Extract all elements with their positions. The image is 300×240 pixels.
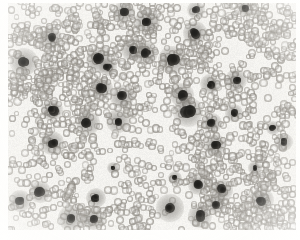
erythrocyte [147, 126, 155, 134]
erythrocyte [168, 3, 174, 6]
erythrocyte [178, 226, 185, 230]
erythrocyte [150, 32, 157, 39]
erythrocyte [152, 77, 159, 84]
erythrocyte [232, 207, 239, 214]
erythrocyte [33, 112, 39, 118]
erythrocyte [185, 102, 193, 110]
erythrocyte [225, 12, 232, 19]
erythrocyte [147, 95, 155, 103]
erythrocyte [126, 24, 132, 30]
erythrocyte [278, 200, 284, 206]
erythrocyte [240, 10, 246, 16]
erythrocyte [184, 99, 190, 105]
erythrocyte [185, 191, 193, 199]
nucleated-cell [48, 140, 56, 148]
erythrocyte [277, 27, 284, 34]
erythrocyte [8, 166, 13, 174]
erythrocyte [90, 99, 99, 108]
erythrocyte [196, 140, 203, 147]
erythrocyte [17, 22, 25, 30]
erythrocyte [78, 89, 85, 96]
erythrocyte [8, 49, 17, 58]
erythrocyte [134, 157, 141, 164]
erythrocyte [42, 34, 48, 40]
erythrocyte [12, 37, 18, 43]
erythrocyte [47, 70, 53, 76]
erythrocyte [150, 180, 156, 186]
erythrocyte [252, 170, 258, 176]
nucleated-cell [207, 120, 213, 126]
erythrocyte [244, 179, 251, 186]
erythrocyte [190, 59, 198, 67]
erythrocyte [41, 107, 48, 114]
erythrocyte [236, 16, 241, 21]
erythrocyte [209, 222, 217, 230]
erythrocyte [110, 88, 118, 96]
nucleated-cell [231, 109, 238, 116]
erythrocyte [90, 90, 97, 97]
erythrocyte [246, 121, 252, 127]
erythrocyte [266, 50, 273, 57]
erythrocyte [79, 111, 87, 119]
erythrocyte [261, 193, 268, 200]
erythrocyte [56, 101, 62, 107]
erythrocyte [183, 39, 192, 48]
erythrocyte [276, 108, 284, 116]
erythrocyte [138, 62, 144, 68]
erythrocyte [149, 25, 157, 33]
erythrocyte [28, 128, 34, 134]
erythrocyte [182, 100, 190, 108]
erythrocyte [183, 58, 190, 65]
erythrocyte [25, 32, 31, 38]
erythrocyte [59, 121, 67, 129]
erythrocyte [279, 52, 286, 59]
erythrocyte [64, 210, 70, 216]
erythrocyte [238, 23, 244, 29]
nucleated-cell [93, 197, 98, 202]
erythrocyte [55, 165, 61, 171]
erythrocyte [45, 53, 52, 60]
nucleated-cell [118, 92, 124, 98]
erythrocyte [87, 125, 93, 131]
erythrocyte [260, 46, 267, 53]
erythrocyte [85, 97, 92, 104]
erythrocyte [23, 88, 29, 94]
erythrocyte [104, 113, 110, 119]
erythrocyte [207, 167, 214, 174]
erythrocyte [167, 10, 174, 17]
erythrocyte [58, 180, 64, 186]
erythrocyte [249, 101, 257, 109]
erythrocyte [130, 17, 136, 23]
erythrocyte [173, 79, 179, 85]
erythrocyte [211, 89, 219, 97]
erythrocyte [277, 223, 283, 229]
erythrocyte [112, 129, 120, 137]
nucleated-cell [257, 197, 266, 206]
nucleated-cell [193, 6, 201, 14]
nucleated-cell [217, 184, 226, 193]
erythrocyte [142, 119, 150, 127]
erythrocyte [206, 177, 213, 184]
erythrocyte [203, 204, 209, 210]
erythrocyte [45, 76, 52, 83]
erythrocyte [100, 19, 105, 24]
erythrocyte [21, 67, 27, 73]
nucleated-cell [141, 49, 149, 57]
erythrocyte [131, 217, 137, 223]
erythrocyte [21, 30, 29, 38]
erythrocyte [263, 19, 269, 25]
erythrocyte [252, 73, 259, 80]
erythrocyte [201, 222, 207, 228]
erythrocyte [199, 52, 205, 58]
nucleated-cell [93, 53, 104, 64]
erythrocyte [211, 179, 217, 185]
erythrocyte [257, 11, 266, 20]
erythrocyte [40, 114, 45, 119]
erythrocyte [126, 71, 134, 79]
erythrocyte [213, 64, 219, 70]
erythrocyte [103, 209, 111, 217]
erythrocyte [140, 103, 147, 110]
erythrocyte [76, 3, 83, 7]
erythrocyte [239, 5, 246, 12]
erythrocyte [246, 97, 253, 104]
